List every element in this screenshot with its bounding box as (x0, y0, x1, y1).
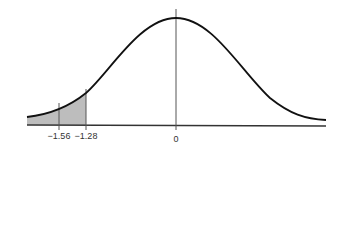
tick-label-neg128: −1.28 (75, 131, 98, 141)
tick-label-neg156: −1.56 (48, 131, 71, 141)
tick-label-zero: 0 (173, 134, 178, 144)
shaded-tail-region (27, 93, 86, 125)
